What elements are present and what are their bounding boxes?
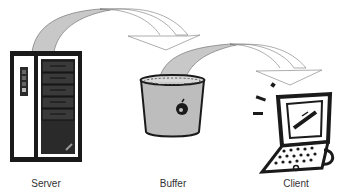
laptop-icon — [253, 82, 333, 172]
label-client: Client — [266, 178, 326, 189]
bucket-icon — [141, 75, 205, 137]
diagram-graphics — [0, 0, 341, 196]
label-buffer: Buffer — [143, 178, 203, 189]
data-flow-diagram: Server Buffer Client — [0, 0, 341, 196]
label-server: Server — [16, 178, 76, 189]
arrow-server-to-buffer — [32, 9, 200, 52]
server-tower-icon — [10, 51, 82, 162]
